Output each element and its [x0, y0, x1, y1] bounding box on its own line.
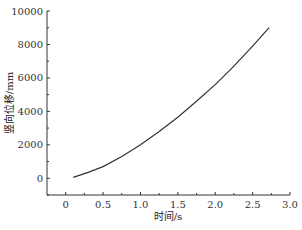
- y-tick-label: 2000: [18, 139, 43, 150]
- y-axis-title: 竖向位移/mm: [3, 71, 15, 134]
- x-tick-label: 2.5: [245, 199, 261, 210]
- x-tick-label: 1.0: [133, 199, 149, 210]
- x-tick-label: 2.0: [207, 199, 223, 210]
- x-axis-title: 时间/s: [154, 210, 183, 222]
- displacement-curve: [73, 28, 269, 178]
- y-tick-label: 0: [37, 173, 43, 184]
- y-tick-label: 8000: [18, 39, 43, 50]
- x-tick-label: 1.5: [170, 199, 186, 210]
- y-tick-label: 10000: [11, 6, 43, 17]
- line-chart: 0200040006000800010000 00.51.01.52.02.53…: [0, 0, 302, 230]
- axes: [47, 11, 290, 195]
- x-tick-label: 0: [63, 199, 69, 210]
- x-tick-label: 0.5: [95, 199, 111, 210]
- y-axis-ticks: 0200040006000800010000: [11, 6, 50, 196]
- y-tick-label: 4000: [18, 106, 43, 117]
- y-tick-label: 6000: [18, 72, 43, 83]
- x-tick-label: 3.0: [282, 199, 298, 210]
